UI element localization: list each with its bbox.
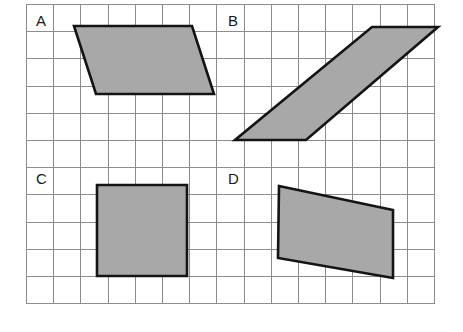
shapes-layer — [74, 26, 438, 278]
shape-a — [74, 26, 214, 94]
figure-canvas: ABCD — [0, 0, 463, 332]
shape-label-a: A — [36, 12, 46, 29]
shape-label-d: D — [228, 170, 239, 187]
geometry-diagram: ABCD — [0, 0, 463, 332]
shape-label-c: C — [36, 170, 47, 187]
shape-d — [278, 186, 393, 278]
shape-c — [97, 185, 187, 276]
shape-label-b: B — [228, 12, 238, 29]
